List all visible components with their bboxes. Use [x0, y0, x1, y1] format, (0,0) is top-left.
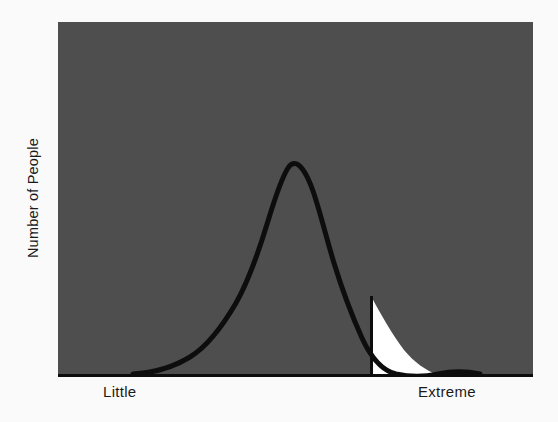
x-axis-tick-label-little: Little — [103, 383, 137, 400]
figure-container: Number of People Little Extreme — [0, 0, 558, 422]
plot-background — [58, 22, 533, 375]
x-axis-tick-label-extreme: Extreme — [418, 383, 476, 400]
plot-svg — [0, 0, 558, 422]
